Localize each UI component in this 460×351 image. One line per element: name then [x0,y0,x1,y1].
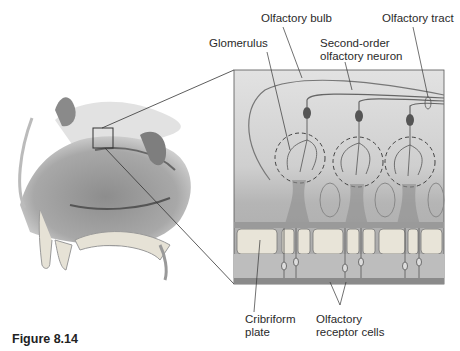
label-second-order-line1: Second-order [320,37,402,50]
label-olfactory-receptor-cells: Olfactory receptor cells [316,313,384,339]
label-cribriform-line1: Cribriform [245,313,295,326]
magnified-olfactory-panel [234,70,444,284]
label-cribriform-line2: plate [245,326,295,339]
label-receptor-line2: receptor cells [316,326,384,339]
label-glomerulus: Glomerulus [209,37,268,50]
label-cribriform-plate: Cribriform plate [245,313,295,339]
label-olfactory-bulb: Olfactory bulb [261,12,332,25]
label-olfactory-tract: Olfactory tract [382,12,454,25]
label-second-order-neuron: Second-order olfactory neuron [320,37,402,63]
figure-caption: Figure 8.14 [12,332,78,346]
label-receptor-line1: Olfactory [316,313,384,326]
nasal-cavity-illustration [20,97,191,280]
label-second-order-line2: olfactory neuron [320,50,402,63]
